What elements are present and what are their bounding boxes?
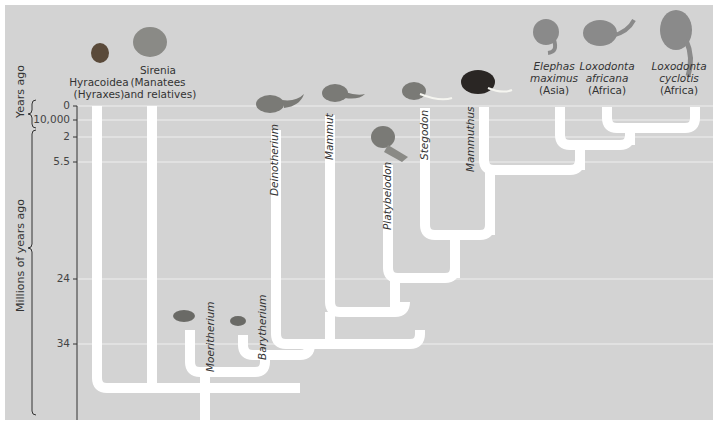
- tick-label-10000: 10,000: [18, 113, 70, 125]
- taxon-label-elephas: Elephas maximus (Asia): [526, 60, 582, 96]
- tick-label-0: 0: [18, 99, 70, 111]
- taxon-genus: Loxodonta: [576, 60, 638, 72]
- taxon-label-platybelodon: Platybelodon: [381, 162, 393, 230]
- tick-label-2: 2: [18, 130, 70, 142]
- tick-label-5-5: 5.5: [18, 155, 70, 167]
- tick-label-24: 24: [18, 272, 70, 284]
- taxon-label-moeritherium: Moeritherium: [204, 301, 216, 372]
- taxon-species: maximus: [526, 72, 582, 84]
- y-axis: [28, 100, 77, 420]
- taxon-species: cyclotis: [648, 72, 710, 84]
- taxon-label-sirenia: Sirenia (Manatees and relatives): [124, 64, 192, 100]
- taxon-label-stegodon: Stegodon: [418, 110, 430, 160]
- taxon-region: (Africa): [648, 84, 710, 96]
- axis-title-millions-years-ago: Millions of years ago: [14, 199, 27, 312]
- taxon-label-barytherium: Barytherium: [256, 294, 268, 360]
- taxon-region: (Asia): [526, 84, 582, 96]
- taxon-label-mammut: Mammut: [323, 113, 335, 160]
- hyrax-icon: [91, 43, 109, 63]
- stegodon-icon: [402, 82, 426, 100]
- taxon-region: (Africa): [576, 84, 638, 96]
- taxon-label-loxodonta-africana: Loxodonta africana (Africa): [576, 60, 638, 96]
- taxon-name: Hyracoidea: [68, 76, 130, 88]
- platybelodon-icon: [371, 126, 395, 148]
- mammut-icon: [322, 84, 348, 102]
- taxon-genus: Loxodonta: [648, 60, 710, 72]
- loxodonta-africana-icon: [583, 20, 617, 46]
- moeritherium-icon: [173, 310, 195, 322]
- manatee-icon: [133, 27, 167, 57]
- taxon-common-name: (Hyraxes): [68, 88, 130, 100]
- taxon-label-deinotherium: Deinotherium: [268, 124, 280, 196]
- barytherium-icon: [230, 316, 246, 326]
- taxon-common-name-cont: and relatives): [124, 88, 192, 100]
- taxon-name: Sirenia: [124, 64, 192, 76]
- taxon-label-hyracoidea: Hyracoidea (Hyraxes): [68, 76, 130, 100]
- taxon-species: africana: [576, 72, 638, 84]
- tick-label-34: 34: [18, 337, 70, 349]
- mammuthus-icon: [461, 70, 495, 94]
- taxon-label-loxodonta-cyclotis: Loxodonta cyclotis (Africa): [648, 60, 710, 96]
- deinotherium-icon: [256, 95, 284, 113]
- taxon-common-name: (Manatees: [124, 76, 192, 88]
- taxon-label-mammuthus: Mammuthus: [464, 106, 476, 172]
- taxon-genus: Elephas: [526, 60, 582, 72]
